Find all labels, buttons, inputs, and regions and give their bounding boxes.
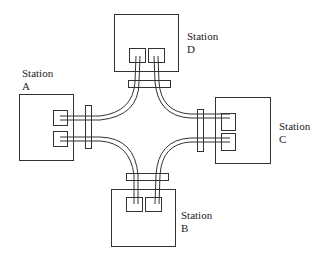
station-a-label-line2: A xyxy=(22,80,53,93)
station-d-label: Station D xyxy=(187,30,218,56)
station-b-connector-bar xyxy=(127,174,169,181)
station-a-connector-bar xyxy=(86,106,92,149)
station-b-label-line2: B xyxy=(181,222,212,235)
network-diagram xyxy=(0,0,323,259)
station-d-box xyxy=(115,15,179,72)
station-b-label-line1: Station xyxy=(181,209,212,222)
cable-b-a xyxy=(60,137,138,204)
station-a-label: Station A xyxy=(22,67,53,93)
station-b-box xyxy=(112,190,176,247)
station-c-port-1 xyxy=(222,114,236,131)
cable-c-b xyxy=(155,138,230,204)
station-d-port-2 xyxy=(149,49,165,63)
station-b-label: Station B xyxy=(181,209,212,235)
station-a-label-line1: Station xyxy=(22,67,53,80)
station-d-port-1 xyxy=(130,49,146,63)
station-c-label-line1: Station xyxy=(279,120,310,133)
station-d-label-line2: D xyxy=(187,43,218,56)
station-d-label-line1: Station xyxy=(187,30,218,43)
station-a-box xyxy=(20,95,74,161)
station-c-label: Station C xyxy=(279,120,310,146)
station-c-label-line2: C xyxy=(279,133,310,146)
station-a-port-2 xyxy=(54,132,68,147)
station-a-port-1 xyxy=(54,111,68,126)
station-c-connector-bar xyxy=(198,110,204,152)
